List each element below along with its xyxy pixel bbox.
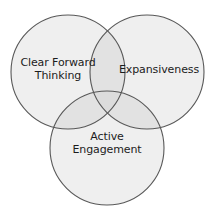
venn-diagram: Clear Forward Thinking Expansiveness Act… [0,0,215,218]
venn-diagram-svg [0,0,215,218]
